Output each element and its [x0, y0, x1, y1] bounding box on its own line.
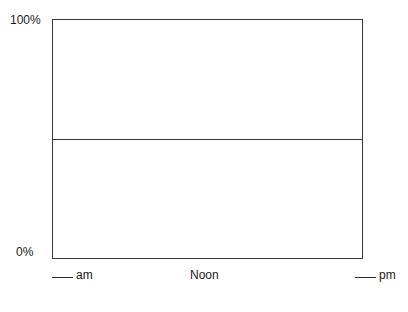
plot-area — [52, 19, 363, 259]
am-fill-in-blank — [52, 277, 73, 278]
chart: 100% 0% am Noon pm — [0, 0, 408, 312]
x-axis-pm-label: pm — [355, 268, 396, 282]
pm-fill-in-blank — [355, 277, 376, 278]
x-axis-am-label: am — [52, 268, 93, 282]
pm-text: pm — [379, 268, 396, 282]
y-axis-top-label: 100% — [10, 14, 41, 26]
noon-text: Noon — [190, 268, 219, 282]
am-text: am — [76, 268, 93, 282]
midline-50-percent — [53, 139, 362, 140]
y-axis-bottom-label: 0% — [16, 246, 33, 258]
x-axis-noon-label: Noon — [190, 268, 219, 282]
